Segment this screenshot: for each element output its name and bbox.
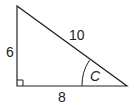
- side-label-horizontal: 8: [58, 89, 66, 105]
- angle-label: C: [90, 68, 101, 84]
- angle-c-arc: [82, 60, 90, 86]
- triangle-diagram: 6 10 8 C: [0, 0, 134, 105]
- side-label-hypotenuse: 10: [69, 27, 85, 43]
- triangle: [17, 6, 127, 86]
- side-label-vertical: 6: [6, 44, 14, 60]
- right-angle-marker: [17, 80, 23, 86]
